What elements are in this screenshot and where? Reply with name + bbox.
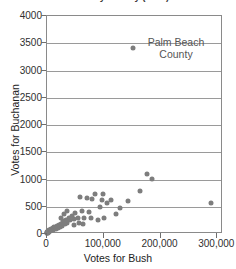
gridline xyxy=(47,180,221,181)
palm-beach-annotation: Palm Beach County xyxy=(134,36,218,60)
data-point xyxy=(209,201,214,206)
x-tick-mark xyxy=(103,233,104,238)
y-tick-label: 1500 xyxy=(20,146,42,157)
x-tick-label: 100,000 xyxy=(85,238,121,249)
data-point xyxy=(114,212,119,217)
data-point xyxy=(117,205,122,210)
y-tick-label: 4000 xyxy=(20,10,42,21)
y-tick-label: 1000 xyxy=(20,173,42,184)
data-point xyxy=(89,215,94,220)
data-point xyxy=(77,194,82,199)
y-tick-label: 500 xyxy=(25,200,42,211)
data-point xyxy=(84,196,89,201)
data-point xyxy=(145,172,150,177)
y-tick-label: 2500 xyxy=(20,91,42,102)
chart-title: Votes by County (2000) xyxy=(0,0,236,2)
gridline xyxy=(47,152,221,153)
y-tick-mark xyxy=(41,151,46,152)
y-tick-mark xyxy=(41,206,46,207)
x-tick-mark xyxy=(46,233,47,238)
y-tick-mark xyxy=(41,42,46,43)
data-point xyxy=(81,222,86,227)
y-tick-label: 3500 xyxy=(20,37,42,48)
x-tick-mark xyxy=(160,233,161,238)
x-tick-label: 0 xyxy=(43,238,49,249)
annotation-line-2: County xyxy=(134,48,218,60)
y-tick-label: 2000 xyxy=(20,119,42,130)
data-point xyxy=(97,205,102,210)
data-point xyxy=(90,197,95,202)
data-point xyxy=(96,218,101,223)
y-tick-mark xyxy=(41,179,46,180)
x-axis-label: Votes for Bush xyxy=(0,252,236,264)
x-tick-label: 300,000 xyxy=(198,238,234,249)
data-point xyxy=(82,215,87,220)
data-point xyxy=(87,210,92,215)
y-tick-mark xyxy=(41,97,46,98)
data-point xyxy=(137,188,142,193)
y-tick-mark xyxy=(41,15,46,16)
data-point xyxy=(80,209,85,214)
data-point xyxy=(101,215,106,220)
gridline xyxy=(47,98,221,99)
data-point xyxy=(101,192,106,197)
scatter-plot-figure: Votes by County (2000) Votes for Buchana… xyxy=(0,0,236,269)
data-point xyxy=(105,201,110,206)
data-point xyxy=(125,199,130,204)
y-tick-mark xyxy=(41,70,46,71)
x-tick-label: 200,000 xyxy=(141,238,177,249)
gridline xyxy=(47,125,221,126)
data-point xyxy=(99,198,104,203)
gridline xyxy=(47,71,221,72)
annotation-line-1: Palm Beach xyxy=(134,36,218,48)
data-point xyxy=(150,176,155,181)
gridline xyxy=(47,207,221,208)
x-tick-mark xyxy=(216,233,217,238)
y-tick-mark xyxy=(41,124,46,125)
data-point xyxy=(58,215,63,220)
y-tick-label: 3000 xyxy=(20,64,42,75)
